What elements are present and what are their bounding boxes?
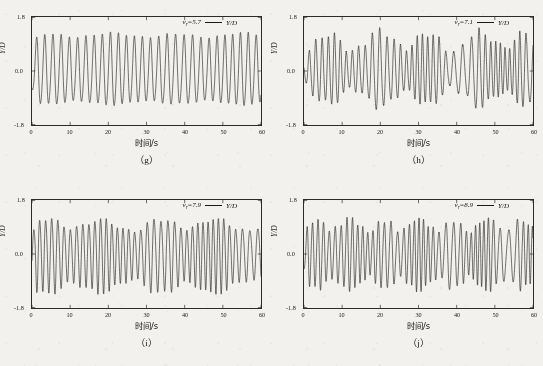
chart-legend: vr=5.7Y/D (183, 18, 237, 27)
x-axis-tick-label: 60 (259, 311, 265, 318)
y-axis-tick-label: 1.8 (289, 196, 297, 203)
legend-parameter-label: vr=7.9 (183, 201, 202, 210)
chart-panel-j: 1.80.0-1.8Y/Dvr=8.9Y/D0102030405060时间/s（… (272, 183, 543, 366)
subfigure-label: （j） (303, 335, 534, 349)
y-axis-tick-label: 1.8 (289, 13, 297, 20)
series-line-yd (32, 32, 261, 106)
y-axis-tick-label: -1.8 (14, 304, 24, 311)
x-axis-tick-label: 10 (338, 311, 344, 318)
y-axis-title: Y/D (270, 42, 279, 54)
legend-parameter-value: =7.1 (460, 18, 473, 26)
plot-area (31, 16, 262, 126)
y-axis-tick-label: -1.8 (286, 121, 296, 128)
x-axis-tick-label: 50 (492, 311, 498, 318)
legend-line-swatch (205, 22, 222, 23)
legend-parameter-label: vr=5.7 (183, 18, 202, 27)
subfigure-label: （g） (31, 152, 262, 166)
x-axis-tick-label: 30 (415, 128, 421, 135)
chart-panel-h: 1.80.0-1.8Y/Dvr=7.1Y/D0102030405060时间/s（… (272, 0, 543, 183)
x-axis-tick-label: 40 (454, 128, 460, 135)
y-axis-tick-label: 0.0 (287, 67, 295, 74)
y-axis-title: Y/D (270, 225, 279, 237)
y-axis-tick-label: 1.8 (17, 196, 25, 203)
subfigure-label: （h） (303, 152, 534, 166)
x-axis-title: 时间/s (31, 136, 262, 148)
x-axis-tick-label: 60 (259, 128, 265, 135)
series-line-yd (304, 217, 533, 292)
x-axis-tick-label: 10 (338, 128, 344, 135)
legend-parameter-value: =5.7 (188, 18, 201, 26)
x-axis-title: 时间/s (303, 136, 534, 148)
chart-panel-g: 1.80.0-1.8Y/Dvr=5.7Y/D0102030405060时间/s（… (0, 0, 271, 183)
y-axis-title: Y/D (0, 42, 7, 54)
x-axis-tick-label: 0 (29, 128, 32, 135)
legend-series-label: Y/D (498, 202, 509, 210)
y-axis-tick-label: 1.8 (17, 13, 25, 20)
x-axis-tick-label: 60 (531, 128, 537, 135)
subfigure-label: （i） (31, 335, 262, 349)
legend-series-label: Y/D (498, 19, 509, 27)
legend-series-label: Y/D (226, 19, 237, 27)
figure-panel-grid: 1.80.0-1.8Y/Dvr=5.7Y/D0102030405060时间/s（… (0, 0, 543, 366)
x-axis-tick-label: 20 (377, 128, 383, 135)
x-axis-tick-label: 50 (492, 128, 498, 135)
x-axis-tick-label: 40 (454, 311, 460, 318)
x-axis-tick-label: 0 (301, 311, 304, 318)
x-axis-tick-label: 10 (66, 128, 72, 135)
x-axis-tick-label: 50 (220, 128, 226, 135)
series-line-yd (304, 28, 533, 110)
series-line-yd (32, 219, 261, 295)
x-axis-tick-label: 20 (105, 128, 111, 135)
x-axis-tick-label: 30 (415, 311, 421, 318)
plot-area (303, 16, 534, 126)
x-axis-tick-label: 20 (105, 311, 111, 318)
y-axis-tick-label: 0.0 (15, 250, 23, 257)
legend-parameter-label: vr=8.9 (455, 201, 474, 210)
legend-series-label: Y/D (226, 202, 237, 210)
y-axis-tick-label: 0.0 (287, 250, 295, 257)
legend-line-swatch (477, 22, 494, 23)
x-axis-tick-label: 0 (301, 128, 304, 135)
x-axis-title: 时间/s (303, 319, 534, 331)
x-axis-tick-label: 30 (143, 128, 149, 135)
x-axis-tick-label: 40 (182, 311, 188, 318)
y-axis-tick-label: -1.8 (286, 304, 296, 311)
plot-area (31, 199, 262, 309)
legend-parameter-value: =8.9 (460, 201, 473, 209)
x-axis-tick-label: 20 (377, 311, 383, 318)
legend-parameter-label: vr=7.1 (455, 18, 474, 27)
x-axis-tick-label: 50 (220, 311, 226, 318)
chart-panel-i: 1.80.0-1.8Y/Dvr=7.9Y/D0102030405060时间/s（… (0, 183, 271, 366)
legend-parameter-value: =7.9 (188, 201, 201, 209)
chart-legend: vr=7.9Y/D (183, 201, 237, 210)
x-axis-tick-label: 0 (29, 311, 32, 318)
y-axis-title: Y/D (0, 225, 7, 237)
y-axis-tick-label: -1.8 (14, 121, 24, 128)
y-axis-tick-label: 0.0 (15, 67, 23, 74)
x-axis-tick-label: 10 (66, 311, 72, 318)
plot-area (303, 199, 534, 309)
x-axis-tick-label: 40 (182, 128, 188, 135)
legend-line-swatch (205, 205, 222, 206)
chart-legend: vr=8.9Y/D (455, 201, 509, 210)
x-axis-title: 时间/s (31, 319, 262, 331)
chart-legend: vr=7.1Y/D (455, 18, 509, 27)
legend-line-swatch (477, 205, 494, 206)
x-axis-tick-label: 60 (531, 311, 537, 318)
x-axis-tick-label: 30 (143, 311, 149, 318)
